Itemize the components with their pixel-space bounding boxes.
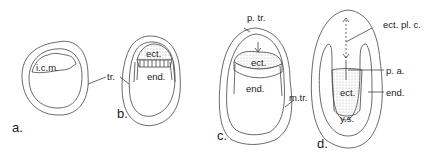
- label-c-end: end.: [246, 84, 265, 94]
- panel-label-a: a.: [12, 121, 23, 134]
- label-tr: tr.: [107, 72, 115, 82]
- panel-d-drawing: [311, 10, 382, 148]
- panel-label-d: d.: [317, 137, 328, 150]
- label-b-ect: ect.: [146, 49, 161, 59]
- label-mtr: m.tr.: [289, 93, 307, 103]
- panel-label-c: c.: [217, 129, 227, 142]
- label-ys: y.s.: [340, 114, 354, 124]
- panel-label-b: b.: [117, 107, 128, 120]
- label-b-end: end.: [147, 72, 166, 82]
- label-pa: p. a.: [386, 66, 405, 76]
- label-ectplc: ect. pl. c.: [383, 20, 421, 30]
- label-ptr: p. tr.: [247, 13, 265, 23]
- label-d-ect: ect.: [340, 88, 355, 98]
- label-d-end: end.: [386, 88, 405, 98]
- label-c-ect: ect.: [251, 58, 266, 68]
- panel-a-drawing: [22, 41, 88, 115]
- label-icm: i.c.m.: [36, 63, 59, 73]
